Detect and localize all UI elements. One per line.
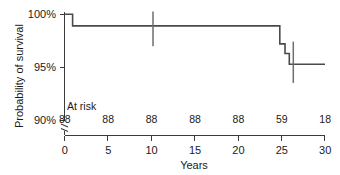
x-tick-label-0: 0: [50, 145, 80, 156]
y-axis-title: Probability of survival: [14, 24, 25, 128]
y-tick-label-100: 100%: [26, 9, 56, 20]
x-tick-label-5: 5: [93, 145, 123, 156]
x-tick-label-15: 15: [180, 145, 210, 156]
at-risk-count-10: 88: [140, 114, 164, 125]
y-tick-label-90: 90%: [26, 115, 56, 126]
y-tick-label-95: 95%: [26, 62, 56, 73]
at-risk-count-30: 18: [313, 114, 337, 125]
y-axis-break-icon: [61, 124, 68, 132]
x-tick-label-20: 20: [223, 145, 253, 156]
x-tick-label-10: 10: [137, 145, 167, 156]
at-risk-count-5: 88: [96, 114, 120, 125]
at-risk-count-25: 59: [270, 114, 294, 125]
x-axis-title: Years: [159, 160, 229, 171]
at-risk-count-0: 88: [53, 114, 77, 125]
survival-step-line: [65, 14, 325, 64]
at-risk-count-20: 88: [226, 114, 250, 125]
x-tick-label-25: 25: [267, 145, 297, 156]
at-risk-count-15: 88: [183, 114, 207, 125]
survival-curve-group: [65, 11, 325, 83]
x-tick-label-30: 30: [310, 145, 340, 156]
survival-chart-figure: 100% 95% 90% 0 5 10 15 20 25 30 At risk …: [0, 0, 340, 175]
at-risk-title: At risk: [67, 101, 96, 112]
